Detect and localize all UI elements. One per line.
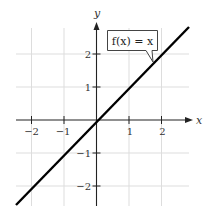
y-axis-arrow-icon <box>94 22 100 30</box>
function-label: f(x) = x <box>112 35 154 48</box>
function-callout: f(x) = x <box>108 31 158 63</box>
x-axis-label: x <box>196 114 203 127</box>
x-tick-label: 2 <box>159 126 165 137</box>
y-tick-label: 2 <box>85 49 91 60</box>
y-tick-label: 1 <box>85 82 91 93</box>
y-tick-label: −1 <box>76 148 91 159</box>
y-tick-label: −2 <box>76 181 91 192</box>
function-graph: −2 −1 1 2 2 1 −1 −2 x y f(x) = x <box>0 0 208 219</box>
x-axis-arrow-icon <box>185 117 193 123</box>
x-tick-label: −2 <box>24 126 39 137</box>
y-axis <box>93 22 101 206</box>
x-axis <box>16 116 193 124</box>
x-tick-label: 1 <box>127 126 133 137</box>
x-tick-label: −1 <box>56 126 71 137</box>
y-axis-label: y <box>93 7 101 20</box>
